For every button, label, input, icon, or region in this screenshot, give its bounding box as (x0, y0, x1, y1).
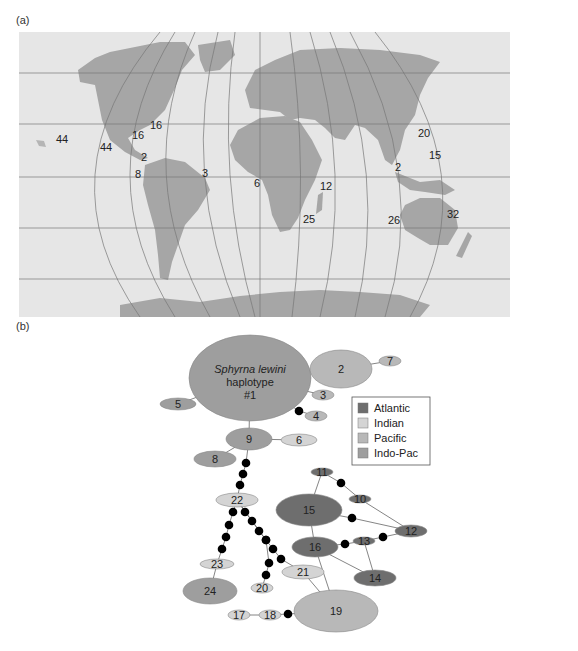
haplotype-node-18: 18 (259, 609, 281, 621)
mutation-step-dot (295, 407, 304, 416)
mutation-step-dot (225, 521, 234, 530)
mutation-step-dot (337, 479, 346, 488)
legend-label: Indo-Pac (374, 447, 419, 459)
haplotype-label: 16 (309, 541, 321, 553)
legend-swatch-indian (358, 418, 368, 428)
mutation-step-dot (239, 470, 248, 479)
haplotype-label: 4 (313, 410, 319, 422)
haplotype-node-23: 23 (200, 558, 234, 570)
haplotype-label: 17 (233, 609, 245, 621)
legend-label: Atlantic (374, 402, 411, 414)
mutation-step-dot (348, 514, 357, 523)
haplotype-node-10: 10 (349, 493, 371, 505)
mutation-step-dot (229, 508, 238, 517)
haplotype-node-2: 2 (310, 350, 372, 388)
mutation-step-dot (265, 559, 274, 568)
mutation-step-dot (242, 459, 251, 468)
haplotype-node-4: 4 (305, 410, 327, 422)
haplotype-label: 23 (211, 558, 223, 570)
haplotype-label: 9 (246, 433, 252, 445)
mutation-step-dot (248, 517, 257, 526)
haplotype-label: 19 (330, 605, 342, 617)
haplotype-label: 7 (387, 355, 393, 367)
haplotype-label: 3 (320, 389, 326, 401)
mutation-step-dot (341, 540, 350, 549)
mutation-step-dot (269, 545, 278, 554)
haplotype-node-16: 16 (292, 537, 338, 557)
haplotype-node-5: 5 (160, 398, 196, 410)
haplotype-node-15: 15 (276, 494, 342, 526)
haplotype-node-20: 20 (251, 582, 273, 594)
haplotype-1-species-label: Sphyrna lewini (214, 363, 286, 375)
haplotype-node-24: 24 (183, 578, 237, 604)
haplotype-node-17: 17 (228, 609, 250, 621)
mutation-step-dot (218, 545, 227, 554)
haplotype-label: 11 (316, 466, 327, 478)
haplotype-label: 6 (296, 434, 302, 446)
haplotype-node-8: 8 (194, 451, 236, 467)
haplotype-node-13: 13 (353, 535, 375, 547)
mutation-step-dot (255, 527, 264, 536)
haplotype-1-number-label: #1 (244, 389, 256, 401)
mutation-step-dot (284, 610, 293, 619)
haplotype-label: 20 (256, 582, 268, 594)
haplotype-node-22: 22 (216, 493, 258, 507)
legend-swatch-indo-pac (358, 448, 368, 458)
haplotype-1-type-label: haplotype (226, 376, 274, 388)
mutation-step-dot (222, 533, 231, 542)
haplotype-node-6: 6 (281, 434, 317, 446)
haplotype-label: 22 (231, 494, 243, 506)
legend-swatch-atlantic (358, 403, 368, 413)
mutation-step-dot (241, 508, 250, 517)
haplotype-nodes: 23456789101112131415161718192021222324 (160, 335, 427, 632)
legend-label: Indian (374, 417, 404, 429)
mutation-step-dot (236, 481, 245, 490)
haplotype-label: 13 (358, 535, 370, 547)
legend-swatch-pacific (358, 433, 368, 443)
mutation-step-dot (277, 555, 286, 564)
haplotype-label: 15 (303, 504, 315, 516)
haplotype-label: 5 (175, 398, 181, 410)
haplotype-node-14: 14 (354, 570, 396, 586)
legend: AtlanticIndianPacificIndo-Pac (352, 397, 430, 465)
haplotype-label: 10 (354, 493, 366, 505)
haplotype-node-12: 12 (395, 525, 427, 537)
haplotype-network: 23456789101112131415161718192021222324 S… (0, 0, 578, 651)
haplotype-label: 24 (204, 585, 216, 597)
haplotype-label: 8 (212, 453, 218, 465)
haplotype-label: 21 (297, 566, 309, 578)
legend-label: Pacific (374, 432, 407, 444)
mutation-step-dot (379, 533, 388, 542)
haplotype-node-21: 21 (282, 565, 324, 579)
haplotype-node-3: 3 (312, 389, 334, 401)
haplotype-label: 12 (405, 525, 417, 537)
mutation-step-dot (262, 536, 271, 545)
haplotype-label: 18 (264, 609, 276, 621)
haplotype-label: 2 (338, 363, 344, 375)
haplotype-node-9: 9 (226, 428, 272, 450)
haplotype-label: 14 (369, 572, 381, 584)
mutation-step-dot (262, 571, 271, 580)
haplotype-node-7: 7 (379, 355, 401, 367)
haplotype-node-19: 19 (294, 590, 378, 632)
